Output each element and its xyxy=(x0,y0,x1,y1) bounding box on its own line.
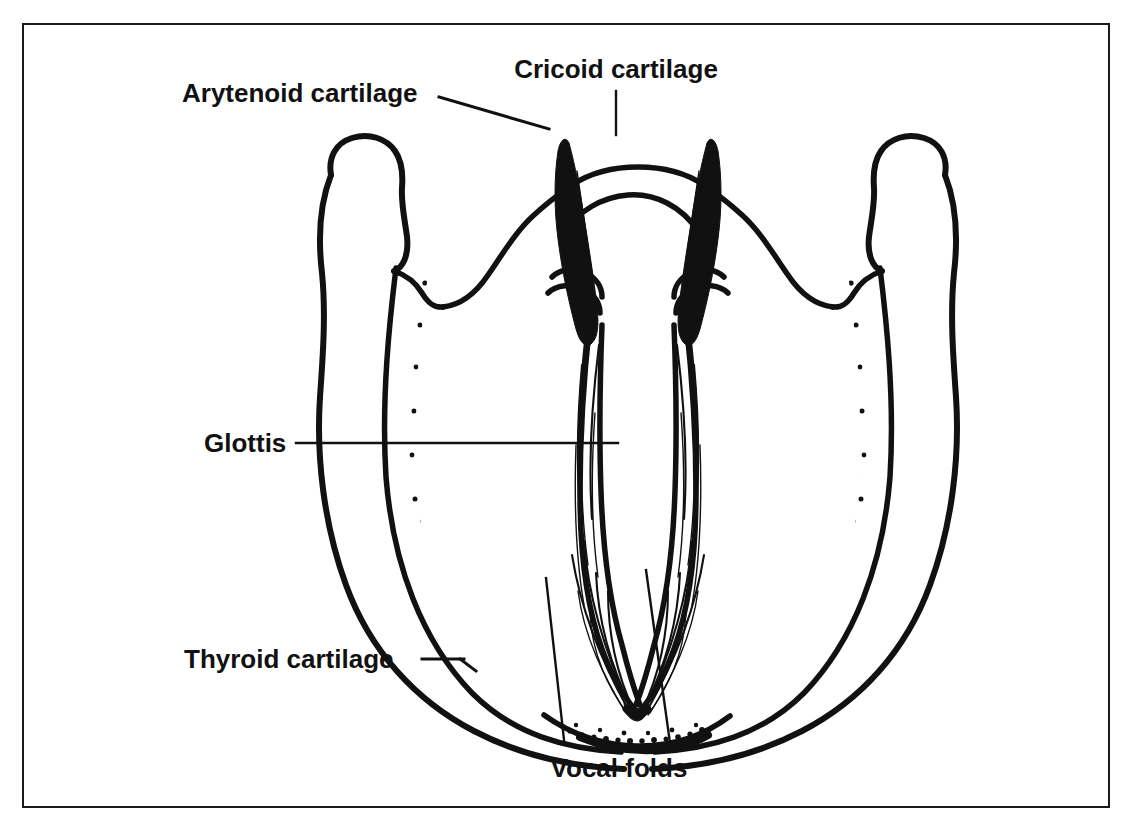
leader-arytenoid xyxy=(439,97,549,129)
label-thyroid-cartilage: Thyroid cartilage xyxy=(184,644,394,674)
vocal-fold-right xyxy=(636,307,704,715)
arytenoid-cartilage-right xyxy=(674,139,728,345)
figure-page: Arytenoid cartilage Cricoid cartilage Gl… xyxy=(0,0,1127,821)
label-vocal-folds: Vocal folds xyxy=(551,753,688,783)
larynx-diagram-svg: Arytenoid cartilage Cricoid cartilage Gl… xyxy=(24,25,1108,806)
vocal-fold-left xyxy=(572,307,640,715)
cricoid-cartilage xyxy=(564,167,712,233)
label-glottis: Glottis xyxy=(204,428,286,458)
label-cricoid-cartilage: Cricoid cartilage xyxy=(514,54,718,84)
thyroid-superior-border xyxy=(443,191,833,307)
label-arytenoid-cartilage: Arytenoid cartilage xyxy=(182,78,418,108)
figure-frame: Arytenoid cartilage Cricoid cartilage Gl… xyxy=(22,23,1110,808)
arytenoid-cartilage-left xyxy=(548,139,602,345)
